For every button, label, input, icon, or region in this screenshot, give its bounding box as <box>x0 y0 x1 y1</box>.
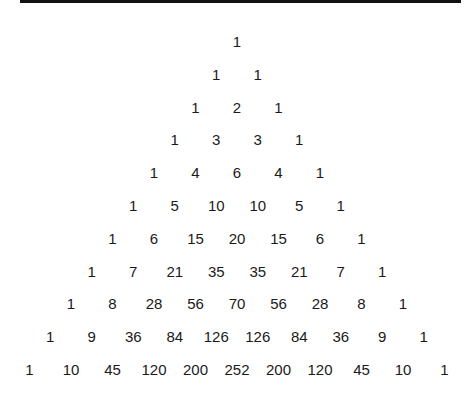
triangle-row: 11 <box>0 65 473 85</box>
triangle-cell: 3 <box>238 130 278 150</box>
triangle-cell: 1 <box>217 32 257 52</box>
triangle-cell: 20 <box>217 229 257 249</box>
triangle-row: 1104512020025220012045101 <box>0 360 473 380</box>
triangle-cell: 1 <box>176 98 216 118</box>
triangle-cell: 200 <box>259 360 299 380</box>
triangle-cell: 10 <box>196 196 236 216</box>
triangle-cell: 56 <box>259 294 299 314</box>
triangle-cell: 10 <box>51 360 91 380</box>
triangle-cell: 1 <box>10 360 50 380</box>
triangle-cell: 9 <box>72 327 112 347</box>
triangle-cell: 120 <box>134 360 174 380</box>
triangle-cell: 35 <box>196 262 236 282</box>
triangle-cell: 1 <box>72 262 112 282</box>
triangle-row: 18285670562881 <box>0 294 473 314</box>
triangle-cell: 1 <box>300 163 340 183</box>
triangle-cell: 1 <box>51 294 91 314</box>
triangle-row: 1 <box>0 32 473 52</box>
triangle-cell: 6 <box>217 163 257 183</box>
triangle-cell: 21 <box>155 262 195 282</box>
triangle-cell: 1 <box>196 65 236 85</box>
triangle-cell: 1 <box>155 130 195 150</box>
triangle-cell: 1 <box>259 98 299 118</box>
triangle-row: 193684126126843691 <box>0 327 473 347</box>
triangle-cell: 15 <box>176 229 216 249</box>
triangle-row: 15101051 <box>0 196 473 216</box>
triangle-cell: 6 <box>134 229 174 249</box>
triangle-cell: 1 <box>30 327 70 347</box>
triangle-cell: 5 <box>155 196 195 216</box>
triangle-cell: 56 <box>176 294 216 314</box>
triangle-cell: 4 <box>259 163 299 183</box>
triangle-cell: 10 <box>383 360 423 380</box>
triangle-cell: 1 <box>383 294 423 314</box>
triangle-cell: 84 <box>279 327 319 347</box>
triangle-cell: 1 <box>425 360 465 380</box>
triangle-cell: 28 <box>134 294 174 314</box>
triangle-cell: 35 <box>238 262 278 282</box>
triangle-cell: 1 <box>238 65 278 85</box>
triangle-cell: 120 <box>300 360 340 380</box>
triangle-cell: 36 <box>113 327 153 347</box>
triangle-cell: 84 <box>155 327 195 347</box>
triangle-cell: 1 <box>404 327 444 347</box>
triangle-row: 121 <box>0 98 473 118</box>
triangle-cell: 1 <box>134 163 174 183</box>
triangle-cell: 45 <box>342 360 382 380</box>
triangle-cell: 1 <box>362 262 402 282</box>
triangle-cell: 200 <box>176 360 216 380</box>
triangle-cell: 3 <box>196 130 236 150</box>
triangle-cell: 1 <box>321 196 361 216</box>
triangle-cell: 126 <box>238 327 278 347</box>
triangle-row: 14641 <box>0 163 473 183</box>
triangle-cell: 7 <box>113 262 153 282</box>
triangle-cell: 6 <box>300 229 340 249</box>
triangle-row: 172135352171 <box>0 262 473 282</box>
triangle-row: 1615201561 <box>0 229 473 249</box>
pascal-triangle: 1111211331146411510105116152015611721353… <box>0 0 473 395</box>
triangle-cell: 70 <box>217 294 257 314</box>
triangle-cell: 1 <box>279 130 319 150</box>
triangle-cell: 1 <box>342 229 382 249</box>
triangle-cell: 21 <box>279 262 319 282</box>
triangle-cell: 8 <box>93 294 133 314</box>
triangle-cell: 28 <box>300 294 340 314</box>
triangle-cell: 252 <box>217 360 257 380</box>
triangle-cell: 4 <box>176 163 216 183</box>
triangle-row: 1331 <box>0 130 473 150</box>
triangle-cell: 1 <box>93 229 133 249</box>
triangle-cell: 2 <box>217 98 257 118</box>
triangle-cell: 1 <box>113 196 153 216</box>
triangle-cell: 126 <box>196 327 236 347</box>
triangle-cell: 7 <box>321 262 361 282</box>
triangle-cell: 36 <box>321 327 361 347</box>
triangle-cell: 8 <box>342 294 382 314</box>
triangle-cell: 10 <box>238 196 278 216</box>
triangle-cell: 9 <box>362 327 402 347</box>
triangle-cell: 15 <box>259 229 299 249</box>
triangle-cell: 45 <box>93 360 133 380</box>
triangle-cell: 5 <box>279 196 319 216</box>
